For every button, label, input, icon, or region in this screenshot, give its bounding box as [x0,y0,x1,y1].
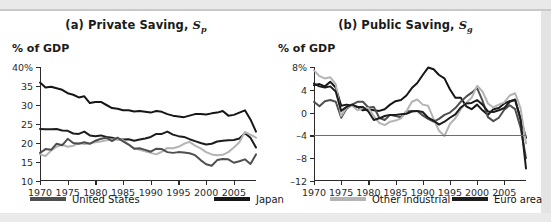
panel-a-x-tick [95,181,96,185]
panel-b-y-tick [310,158,314,159]
panel-b-x-tick [396,181,397,185]
panel-b-title-subscript: g [467,24,473,34]
panel-b-series-lines [314,67,526,181]
legend-item-other-industrial[interactable]: Other industrial [330,194,450,205]
panel-a-title-subscript: p [201,24,207,34]
panel-b-title-symbol: S [459,18,467,32]
panel-b-title-text: (b) Public Saving, [338,18,458,32]
panel-b-line-euro-area [314,84,526,169]
legend-item-label: United States [72,194,140,205]
panel-b-y-tick [310,113,314,114]
legend-line-swatch-icon [214,197,250,200]
legend-item-united-states[interactable]: United States [30,194,140,205]
panel-a-title-text: (a) Private Saving, [65,18,192,32]
panel-a-line-united-states [40,138,256,166]
panel-b-reference-line [314,135,526,136]
panel-b-x-tick [504,181,505,185]
panel-b-x-tick [423,181,424,185]
panel-a-series-lines [40,67,256,181]
panel-a-line-other-industrial [40,132,256,156]
legend-line-swatch-icon [30,197,66,200]
legend-item-euro-area[interactable]: Euro area [452,194,542,205]
panel-b-y-tick [310,90,314,91]
panel-a-y-tick [36,86,40,87]
panel-a-x-tick [151,181,152,185]
panel-a-x-tick [68,181,69,185]
panel-a-x-tick [123,181,124,185]
panel-b-y-tick-label: 4 [301,84,307,95]
panel-a-y-tick [36,143,40,144]
panel-a-y-tick-label: 10 [21,176,33,187]
panel-private-saving: (a) Private Saving, Sp % of GDP 10152025… [0,11,272,186]
panel-a-plot-area: 10152025303540%1970197519801985199019952… [40,67,256,181]
panel-a-y-tick [36,124,40,125]
panel-a-y-axis-unit: % of GDP [12,42,69,55]
figure-container: (a) Private Saving, Sp % of GDP 10152025… [0,0,551,222]
panel-b-x-tick [477,181,478,185]
legend-item-label: Euro area [494,194,542,205]
panel-a-line-japan [40,83,256,132]
panel-b-plot-area: –12–8–4048%19701975198019851990199520002… [314,67,526,181]
panel-a-y-tick-label: 20 [21,138,33,149]
panel-b-x-tick [314,181,315,185]
panel-public-saving: (b) Public Saving, Sg % of GDP –12–8–404… [270,11,541,186]
panel-b-x-tick [341,181,342,185]
panel-a-y-tick [36,105,40,106]
panel-a-line-euro-area [40,129,256,148]
legend-item-label: Japan [256,194,284,205]
panel-b-y-tick-label: –12 [290,176,307,187]
panel-a-x-tick [178,181,179,185]
panel-a-x-tick [206,181,207,185]
page-bottom-band [0,213,551,222]
panel-a-y-tick [36,67,40,68]
panel-b-y-tick-label: –4 [296,130,307,141]
panel-a-y-tick-label: 15 [21,157,33,168]
legend-line-swatch-icon [452,197,488,200]
legend-item-label: Other industrial [372,194,450,205]
legend-line-swatch-icon [330,197,366,200]
panel-b-y-tick [310,67,314,68]
page-top-band [0,0,551,9]
panel-b-title: (b) Public Saving, Sg [270,18,541,34]
panel-a-title: (a) Private Saving, Sp [0,18,272,34]
legend-item-japan[interactable]: Japan [214,194,284,205]
panel-b-y-tick-label: 0 [301,107,307,118]
panel-a-y-tick [36,162,40,163]
panel-b-y-tick-label: –8 [296,153,307,164]
panel-b-line-united-states [314,88,526,158]
panel-a-y-tick-label: 25 [21,119,33,130]
legend: United StatesJapanOther industrialEuro a… [0,188,541,210]
panel-a-x-tick [234,181,235,185]
page-right-band [541,11,551,213]
panel-b-y-tick-label: 8% [292,62,307,73]
panel-a-x-tick [40,181,41,185]
panel-b-y-axis-unit: % of GDP [278,42,335,55]
panel-b-x-tick [450,181,451,185]
panel-a-y-tick-label: 30 [21,100,33,111]
panel-a-y-tick-label: 35 [21,81,33,92]
panel-a-title-symbol: S [193,18,201,32]
panel-a-y-tick-label: 40% [12,62,33,73]
panel-b-x-tick [368,181,369,185]
